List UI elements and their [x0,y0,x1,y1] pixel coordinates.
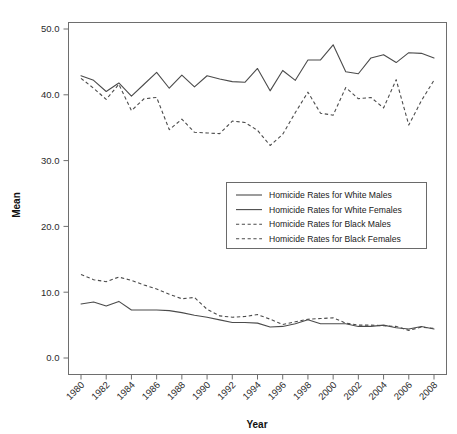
chart-legend: Homicide Rates for White MalesHomicide R… [227,183,427,249]
x-tick-label: 2008 [417,379,440,402]
series-line-3 [81,274,434,330]
series-line-1 [81,301,434,329]
y-tick-label: 0.0 [46,352,59,363]
y-tick-label: 10.0 [41,287,60,298]
y-tick-label: 20.0 [41,221,60,232]
legend-label: Homicide Rates for Black Females [269,234,401,244]
x-tick-label: 1980 [64,379,87,402]
x-tick-label: 1998 [291,379,314,402]
y-tick-label: 40.0 [41,89,60,100]
y-axis-ticks: 0.010.020.030.040.050.0 [41,23,69,363]
x-tick-label: 1990 [190,379,213,402]
x-tick-label: 1984 [114,379,137,402]
y-tick-label: 50.0 [41,23,60,34]
line-chart: 0.010.020.030.040.050.0 1980198219841986… [0,0,457,434]
y-tick-label: 30.0 [41,155,60,166]
legend-label: Homicide Rates for White Females [269,205,402,215]
x-tick-label: 2006 [391,379,414,402]
x-tick-label: 1986 [139,379,162,402]
x-tick-label: 2000 [316,379,339,402]
x-axis-ticks: 1980198219841986198819901992199419961998… [64,375,440,402]
series-line-2 [81,78,434,145]
legend-label: Homicide Rates for White Males [269,190,392,200]
x-tick-label: 2002 [341,379,364,402]
x-tick-label: 1988 [165,379,188,402]
x-tick-label: 1982 [89,379,112,402]
x-tick-label: 1992 [215,379,238,402]
x-tick-label: 1994 [240,379,263,402]
x-tick-label: 2004 [366,379,389,402]
x-tick-label: 1996 [265,379,288,402]
y-axis-title: Mean [11,192,22,218]
x-axis-title: Year [246,419,267,430]
chart-container: 0.010.020.030.040.050.0 1980198219841986… [0,0,457,434]
legend-label: Homicide Rates for Black Males [269,219,391,229]
series-line-0 [81,45,434,96]
